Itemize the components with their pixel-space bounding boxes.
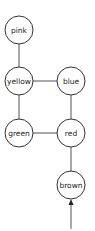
node-label: yellow — [7, 77, 31, 86]
node-red: red — [57, 119, 85, 147]
graph-diagram: pink yellow blue green red brown — [0, 0, 95, 231]
node-label: green — [8, 129, 30, 138]
node-blue: blue — [57, 67, 85, 95]
node-pink: pink — [5, 16, 33, 44]
node-label: red — [65, 129, 78, 138]
node-green: green — [5, 119, 33, 147]
node-label: brown — [59, 181, 82, 190]
node-brown: brown — [57, 171, 85, 199]
entry-arrowhead-icon — [69, 199, 74, 205]
node-label: blue — [63, 77, 80, 86]
node-label: pink — [11, 26, 28, 35]
node-yellow: yellow — [5, 67, 33, 95]
